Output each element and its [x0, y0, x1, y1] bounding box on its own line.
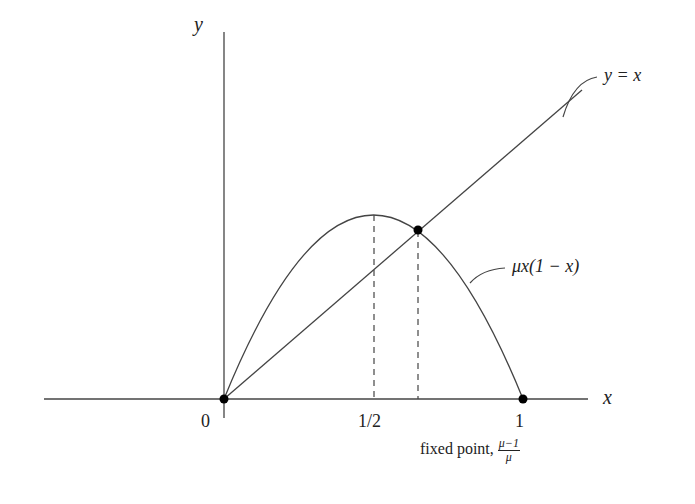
- logistic-label: μx(1 − x): [512, 256, 579, 277]
- x-axis-label: x: [603, 386, 612, 409]
- identity-leader: [563, 77, 597, 117]
- fixed-point-dot: [414, 226, 423, 235]
- tick-half: 1/2: [358, 411, 381, 432]
- fraction-denominator: μ: [498, 451, 520, 464]
- tick-one: 1: [515, 411, 524, 432]
- tick-zero: 0: [201, 411, 210, 432]
- identity-line: [224, 90, 582, 399]
- identity-label: y = x: [604, 65, 641, 86]
- fixed-point-fraction: μ−1 μ: [498, 437, 520, 464]
- diagram-canvas: [0, 0, 695, 504]
- fixed-point-label: fixed point, μ−1 μ: [420, 437, 520, 464]
- one-dot: [519, 395, 528, 404]
- logistic-leader: [470, 268, 505, 283]
- fixed-point-prefix: fixed point,: [420, 440, 494, 457]
- origin-dot: [220, 395, 229, 404]
- fraction-numerator: μ−1: [498, 437, 520, 451]
- y-axis-label: y: [194, 13, 203, 36]
